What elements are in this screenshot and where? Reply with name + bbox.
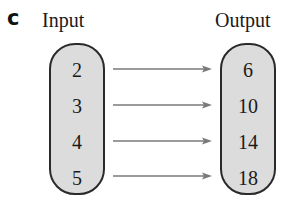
arrow-icon [113, 173, 212, 180]
arrow-icon [113, 102, 212, 109]
arrow-icon [113, 138, 212, 145]
mapping-arrows [0, 0, 288, 207]
arrow-icon [113, 66, 212, 73]
